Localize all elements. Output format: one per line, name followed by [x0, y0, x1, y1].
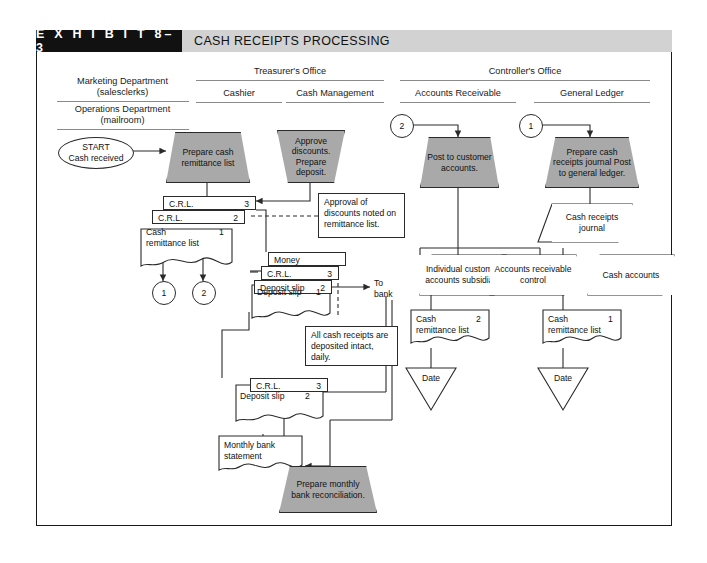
document-deposit-slip-copy-1-number: 1 [316, 287, 321, 298]
process-label: Post to customer accounts. [421, 152, 498, 173]
data-cash-accounts: Cash accounts [588, 255, 674, 295]
rule-cash-management [286, 102, 384, 103]
document-crl-copy-1-label: Cash remittance list [146, 227, 208, 248]
process-post-to-customer-accounts: Post to customer accounts. [420, 137, 499, 188]
data-accounts-receivable-control: Accounts receivable control [490, 255, 576, 295]
rule-accounts-receivable [400, 102, 516, 103]
exhibit-title: CASH RECEIPTS PROCESSING [182, 30, 672, 52]
column-header-accounts-receivable: Accounts Receivable [400, 88, 516, 100]
exhibit-number: E X H I B I T 8–3 [36, 30, 182, 52]
column-header-marketing-line1: Marketing Department [60, 76, 185, 88]
process-label: Approve discounts. Prepare deposit. [278, 136, 344, 178]
to-bank-label: To bank [374, 278, 404, 299]
document-crl-copy-1-number: 1 [219, 227, 224, 238]
start-label-line1: START [69, 142, 124, 153]
doc-copy-number: 3 [327, 269, 332, 279]
rule-marketing [57, 101, 189, 102]
document-deposit-slip-copy-1-label: Deposit slip [257, 287, 301, 298]
column-header-treasurer: Treasurer's Office [195, 66, 385, 78]
offpage-connector-1-general-ledger: 1 [519, 114, 543, 138]
document-crl-copy-1-gl-label: Cash remittance list [548, 314, 606, 335]
rule-treasurer [196, 80, 384, 81]
file-label: Date [538, 373, 588, 383]
column-header-controller: Controller's Office [400, 66, 650, 78]
column-header-operations-line1: Operations Department [60, 104, 185, 116]
process-approve-discounts-prepare-deposit: Approve discounts. Prepare deposit. [277, 130, 345, 183]
process-prepare-cash-receipts-journal: Prepare cash receipts journal Post to ge… [545, 137, 639, 188]
file-label: Date [406, 373, 456, 383]
column-header-marketing-line2: (salesclerks) [60, 87, 185, 99]
offpage-connector-1-cashier: 1 [152, 281, 176, 305]
doc-copy-number: 3 [316, 381, 321, 391]
doc-copy-number: 2 [233, 213, 238, 223]
start-label-line2: Cash received [69, 153, 124, 164]
document-money: Money [268, 252, 346, 266]
note-all-cash-receipts-deposited-intact: All cash receipts are deposited intact, … [305, 326, 398, 366]
rule-operations [57, 129, 189, 130]
column-header-cashier: Cashier [196, 88, 282, 100]
column-header-general-ledger: General Ledger [534, 88, 650, 100]
rule-general-ledger [534, 102, 650, 103]
rule-controller [400, 80, 650, 81]
data-cash-receipts-journal: Cash receipts journal [552, 204, 632, 242]
doc-label: C.R.L. [256, 381, 280, 391]
doc-copy-number: 3 [244, 199, 249, 209]
document-crl-copy-2-ar-label: Cash remittance list [416, 314, 474, 335]
to-bank-line1: To [374, 278, 404, 289]
process-label: Prepare cash remittance list [167, 147, 249, 168]
rule-cashier [196, 102, 282, 103]
document-crl-copy-2: C.R.L. 2 [152, 210, 245, 224]
document-crl-copy-1-gl-number: 1 [608, 314, 613, 325]
exhibit-canvas: E X H I B I T 8–3 CASH RECEIPTS PROCESSI… [0, 0, 707, 563]
process-label: Prepare cash receipts journal Post to ge… [546, 147, 638, 178]
process-label: Prepare monthly bank reconciliation. [280, 479, 376, 500]
doc-label: C.R.L. [158, 213, 182, 223]
to-bank-line2: bank [374, 289, 404, 300]
document-monthly-bank-statement-label: Monthly bank statement [224, 440, 296, 461]
exhibit-titlebar: E X H I B I T 8–3 CASH RECEIPTS PROCESSI… [36, 30, 672, 52]
column-header-cash-management: Cash Management [286, 88, 384, 100]
document-deposit-slip-copy-2-recon-label: Deposit slip [240, 391, 284, 402]
column-header-operations-line2: (mailroom) [60, 115, 185, 127]
process-prepare-cash-remittance-list: Prepare cash remittance list [166, 132, 250, 183]
document-crl-copy-3: C.R.L. 3 [163, 196, 256, 210]
start-terminator: START Cash received [58, 137, 134, 169]
offpage-connector-2-cashier: 2 [192, 281, 216, 305]
note-approval-of-discounts: Approval of discounts noted on remittanc… [318, 193, 405, 238]
document-deposit-slip-copy-2-recon-number: 2 [305, 391, 310, 402]
document-crl-copy-3-deposit: C.R.L. 3 [261, 266, 339, 280]
file-date-accounts-receivable: Date [406, 368, 456, 410]
document-crl-copy-2-ar-number: 2 [476, 314, 481, 325]
process-prepare-monthly-bank-reconciliation: Prepare monthly bank reconciliation. [279, 466, 377, 513]
file-date-general-ledger: Date [538, 368, 588, 410]
document-crl-copy-3-recon: C.R.L. 3 [250, 378, 328, 392]
offpage-connector-2-accounts-receivable: 2 [390, 114, 414, 138]
doc-label: Money [274, 255, 300, 265]
doc-label: C.R.L. [169, 199, 193, 209]
doc-label: C.R.L. [267, 269, 291, 279]
